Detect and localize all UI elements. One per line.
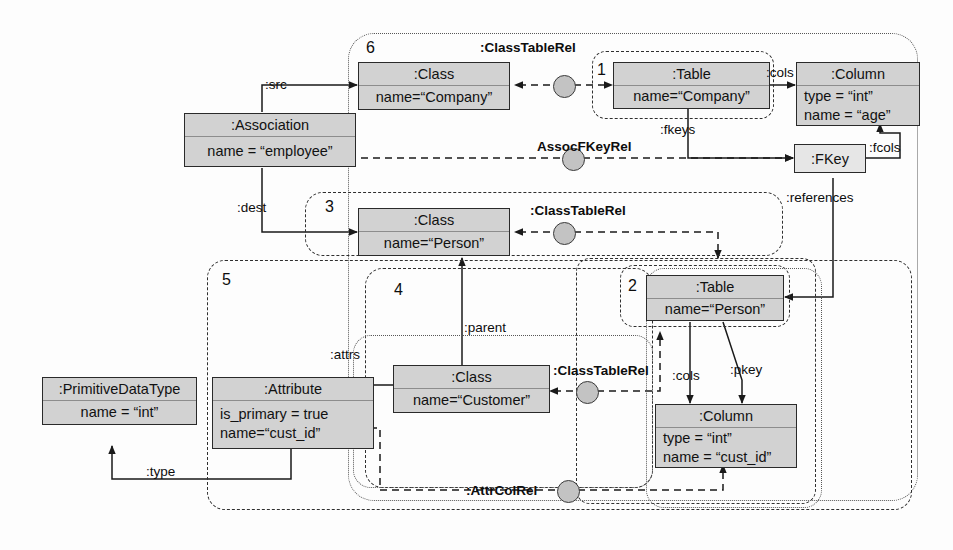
region-number-3: 3 [325,199,334,214]
edge-label-pkey: :pkey [730,362,762,377]
object-header: :Table [614,63,769,86]
object-header: :Association [185,114,355,137]
region-number-6: 6 [366,40,375,55]
region-number-2: 2 [628,278,637,293]
object-attribute: name = “int” [50,403,189,422]
edge-label-src: :src [265,77,287,92]
edge-label-attrs: :attrs [330,347,360,362]
edge-label-fkeys: :fkeys [660,122,695,137]
object-header: :Class [359,209,509,232]
edge-label-cols-top: :cols [766,65,794,80]
object-column-cust-id[interactable]: :Column type = “int” name = “cust_id” [655,404,797,468]
correspondence-node-classtablerel-1[interactable] [553,75,576,98]
edge-label-parent: :parent [464,320,506,335]
object-attribute: type = “int” [804,87,912,106]
object-attribute: is_primary = true [220,405,366,424]
correspondence-label-classtablerel-2: :ClassTableRel [530,203,626,218]
object-attribute: name = “employee” [192,142,348,161]
edge-label-fcols: :fcols [869,140,901,155]
correspondence-node-attrcolrel[interactable] [557,480,580,503]
correspondence-node-classtablerel-2[interactable] [553,222,576,245]
correspondence-label-assocfkeyrel: AssocFKeyRel [537,139,632,154]
object-attribute: name=“Person” [366,234,502,253]
object-header: :Column [656,405,796,428]
diagram-canvas: :Class name=“Company” :Association name … [0,0,953,550]
object-attribute-cust-id[interactable]: :Attribute is_primary = true name=“cust_… [212,377,374,449]
object-attribute: name=“Company” [366,88,502,107]
object-header: :Attribute [213,378,373,401]
object-fkey[interactable]: :FKey [794,144,866,173]
object-table-company[interactable]: :Table name=“Company” [613,62,770,109]
object-header: :Column [797,63,919,86]
object-header: :Class [394,366,549,389]
object-attribute: name=“Customer” [401,391,542,410]
object-header: :PrimitiveDataType [43,378,196,401]
correspondence-label-classtablerel-1: :ClassTableRel [480,40,576,55]
region-number-1: 1 [597,62,606,77]
object-class-company[interactable]: :Class name=“Company” [358,62,510,110]
edge-label-cols-bottom: :cols [672,368,700,383]
object-attribute: name=“Company” [621,87,762,106]
object-header: :Class [359,63,509,86]
object-column-age[interactable]: :Column type = “int” name = “age” [796,62,920,126]
object-class-customer[interactable]: :Class name=“Customer” [393,365,550,413]
object-association-employee[interactable]: :Association name = “employee” [184,113,356,167]
correspondence-label-classtablerel-3: :ClassTableRel [553,363,649,378]
edge-label-references: :references [786,190,854,205]
edge-label-dest: :dest [237,200,266,215]
region-number-5: 5 [222,272,231,287]
region-number-4: 4 [394,282,403,297]
object-attribute: name=“cust_id” [220,424,366,443]
object-attribute: name = “cust_id” [663,448,789,467]
object-primitive-datatype-int[interactable]: :PrimitiveDataType name = “int” [42,377,197,425]
object-attribute: type = “int” [663,429,789,448]
object-class-person[interactable]: :Class name=“Person” [358,208,510,256]
object-table-person[interactable]: :Table name=“Person” [646,275,784,321]
correspondence-label-attrcolrel: :AttrColRel [466,483,537,498]
object-attribute: name=“Person” [654,300,776,319]
object-attribute: name = “age” [804,106,912,125]
correspondence-node-classtablerel-3[interactable] [576,381,599,404]
edge-label-type: :type [146,464,175,479]
object-header: :FKey [795,148,865,170]
object-header: :Table [647,276,783,299]
